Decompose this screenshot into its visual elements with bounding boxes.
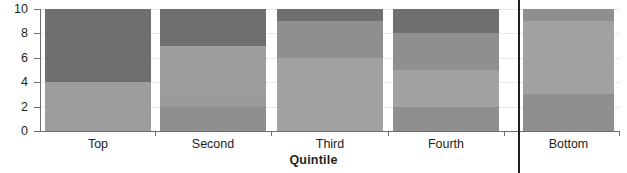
- bar-segment: [393, 33, 499, 70]
- bar-segment: [393, 107, 499, 131]
- bar-segment: [160, 107, 266, 131]
- x-tick-label-fourth: Fourth: [386, 137, 506, 151]
- y-tick-label: 2: [2, 101, 28, 114]
- bar-third: [277, 9, 383, 131]
- bar-top: [45, 9, 151, 131]
- bars-layer: [40, 9, 620, 131]
- bar-segment: [523, 94, 614, 131]
- y-tick-label: 10: [2, 3, 28, 16]
- bar-segment: [45, 82, 151, 131]
- x-tick-label-top: Top: [38, 137, 158, 151]
- bar-bottom: [523, 9, 614, 131]
- bar-segment: [393, 70, 499, 107]
- bar-segment: [45, 9, 151, 82]
- x-axis-line: [40, 131, 620, 132]
- x-tick-mark: [504, 131, 505, 136]
- x-tick-mark: [271, 131, 272, 136]
- stacked-bar-chart: 0246810 TopSecondThirdFourthBottom Quint…: [0, 0, 627, 173]
- x-tick-label-second: Second: [153, 137, 273, 151]
- bar-segment: [393, 9, 499, 33]
- bar-segment: [277, 21, 383, 58]
- x-tick-mark: [155, 131, 156, 136]
- x-tick-mark: [388, 131, 389, 136]
- x-tick-mark: [619, 131, 620, 136]
- bar-segment: [277, 58, 383, 131]
- y-tick-label: 6: [2, 52, 28, 65]
- y-tick-label: 4: [2, 76, 28, 89]
- bar-segment: [277, 9, 383, 21]
- x-axis-title: Quintile: [0, 153, 627, 167]
- y-tick-label: 8: [2, 27, 28, 40]
- bar-segment: [160, 46, 266, 95]
- y-tick-label: 0: [2, 125, 28, 138]
- group-divider: [518, 0, 520, 173]
- bar-segment: [523, 21, 614, 94]
- x-tick-label-third: Third: [270, 137, 390, 151]
- bar-segment: [523, 9, 614, 21]
- bar-segment: [160, 9, 266, 46]
- bar-fourth: [393, 9, 499, 131]
- x-tick-label-bottom: Bottom: [509, 137, 627, 151]
- bar-second: [160, 9, 266, 131]
- bar-segment: [160, 94, 266, 106]
